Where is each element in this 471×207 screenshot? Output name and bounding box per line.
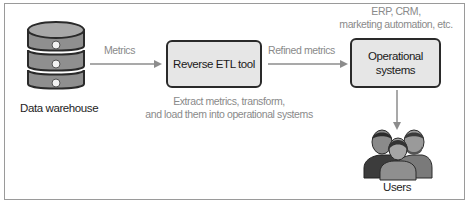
- process-caption: Extract metrics, transform, and load the…: [144, 95, 314, 121]
- process-caption-line2: and load them into operational systems: [144, 108, 314, 121]
- arrow-right-icon: [268, 60, 348, 68]
- examples-line1: ERP, CRM,: [336, 5, 456, 18]
- operational-systems-label-line1: Operational: [368, 49, 423, 63]
- examples-line2: marketing automation, etc.: [336, 18, 456, 31]
- arrow-down-icon: [393, 90, 401, 130]
- arrow-right-icon: [90, 60, 162, 68]
- data-warehouse-label: Data warehouse: [20, 102, 98, 114]
- database-icon: [26, 18, 86, 94]
- operational-systems-examples: ERP, CRM, marketing automation, etc.: [336, 5, 456, 31]
- operational-systems-box: Operational systems: [350, 38, 441, 88]
- reverse-etl-tool-box: Reverse ETL tool: [166, 40, 262, 88]
- process-caption-line1: Extract metrics, transform,: [144, 95, 314, 108]
- metrics-edge-label: Metrics: [104, 44, 135, 56]
- users-group-icon: [362, 128, 434, 180]
- refined-metrics-edge-label: Refined metrics: [268, 44, 335, 56]
- users-label: Users: [383, 181, 411, 193]
- operational-systems-label-line2: systems: [376, 63, 415, 77]
- reverse-etl-tool-label: Reverse ETL tool: [173, 57, 255, 71]
